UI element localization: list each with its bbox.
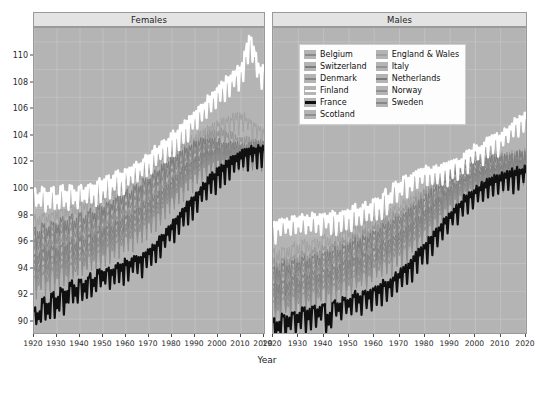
x-tick-mark <box>500 334 501 337</box>
legend-label: Norway <box>392 87 422 95</box>
panel-title-females-strip: Females <box>33 12 265 27</box>
x-tick-mark <box>240 334 241 337</box>
x-tick-label: 1980 <box>161 339 180 348</box>
legend-swatch-icon <box>376 62 388 71</box>
x-tick-mark <box>348 334 349 337</box>
panel-females: Females <box>33 12 265 334</box>
x-tick-mark <box>297 334 298 337</box>
legend-item[interactable]: France <box>304 97 367 108</box>
x-tick-mark <box>33 334 34 337</box>
y-tick-label: 96 <box>18 237 28 246</box>
x-tick-mark <box>102 334 103 337</box>
legend-item[interactable]: Italy <box>376 61 459 72</box>
x-tick-label: 1990 <box>184 339 203 348</box>
legend-label: England & Wales <box>392 51 459 59</box>
legend-swatch-icon <box>304 110 316 119</box>
y-tick-label: 90 <box>18 316 28 325</box>
y-tick-label: 106 <box>13 104 28 113</box>
legend-swatch-icon <box>376 74 388 83</box>
legend-item[interactable]: Sweden <box>376 97 459 108</box>
legend-label: Scotland <box>320 111 355 119</box>
x-tick-label: 1970 <box>138 339 157 348</box>
x-tick-label: 1950 <box>338 339 357 348</box>
x-axis-females: 1920193019401950196019701980199020002010… <box>33 334 265 350</box>
x-tick-label: 2010 <box>230 339 249 348</box>
y-tick-label: 108 <box>13 77 28 86</box>
legend-column-left: BelgiumSwitzerlandDenmarkFinlandFranceSc… <box>304 49 367 120</box>
legend-swatch-icon <box>376 50 388 59</box>
y-tick-label: 110 <box>13 51 28 60</box>
legend-item[interactable]: Scotland <box>304 109 367 120</box>
legend-label: Belgium <box>320 51 353 59</box>
x-tick-label: 1940 <box>313 339 332 348</box>
x-tick-mark <box>263 334 264 337</box>
y-tick-label: 100 <box>13 184 28 193</box>
x-tick-mark <box>525 334 526 337</box>
x-tick-mark <box>56 334 57 337</box>
x-tick-label: 1990 <box>439 339 458 348</box>
x-tick-label: 1960 <box>364 339 383 348</box>
legend-swatch-icon <box>304 62 316 71</box>
legend-label: Switzerland <box>320 63 367 71</box>
legend-label: Italy <box>392 63 409 71</box>
x-tick-mark <box>373 334 374 337</box>
legend-item[interactable]: Denmark <box>304 73 367 84</box>
x-tick-label: 1960 <box>115 339 134 348</box>
legend-swatch-icon <box>376 86 388 95</box>
x-tick-label: 2010 <box>490 339 509 348</box>
y-axis: 9092949698100102104106108110 <box>0 27 33 334</box>
legend-swatch-icon <box>304 86 316 95</box>
panel-title-males-strip: Males <box>272 12 527 27</box>
legend-swatch-icon <box>304 74 316 83</box>
legend-label: Netherlands <box>392 75 441 83</box>
legend-item[interactable]: Netherlands <box>376 73 459 84</box>
legend-label: Sweden <box>392 99 424 107</box>
panel-title-males: Males <box>387 15 412 25</box>
x-tick-label: 1920 <box>262 339 281 348</box>
legend-item[interactable]: England & Wales <box>376 49 459 60</box>
x-tick-label: 1930 <box>46 339 65 348</box>
legend-item[interactable]: Norway <box>376 85 459 96</box>
legend-item[interactable]: Belgium <box>304 49 367 60</box>
x-axis-males: 1920193019401950196019701980199020002010… <box>272 334 527 350</box>
legend-item[interactable]: Switzerland <box>304 61 367 72</box>
legend-swatch-icon <box>304 98 316 107</box>
panel-title-females: Females <box>131 15 167 25</box>
x-axis-label: Year <box>0 355 534 365</box>
x-tick-mark <box>79 334 80 337</box>
y-tick-label: 94 <box>18 263 28 272</box>
x-tick-label: 2000 <box>207 339 226 348</box>
x-tick-mark <box>148 334 149 337</box>
x-tick-mark <box>323 334 324 337</box>
plot-area-females <box>33 27 265 334</box>
legend: BelgiumSwitzerlandDenmarkFinlandFranceSc… <box>299 44 466 125</box>
legend-swatch-icon <box>376 98 388 107</box>
legend-label: Finland <box>320 87 349 95</box>
x-tick-mark <box>474 334 475 337</box>
x-tick-mark <box>449 334 450 337</box>
x-tick-mark <box>272 334 273 337</box>
x-tick-mark <box>194 334 195 337</box>
x-tick-label: 1920 <box>23 339 42 348</box>
x-tick-mark <box>217 334 218 337</box>
x-tick-label: 1950 <box>92 339 111 348</box>
x-tick-mark <box>424 334 425 337</box>
x-tick-mark <box>171 334 172 337</box>
y-tick-label: 102 <box>13 157 28 166</box>
y-tick-label: 92 <box>18 290 28 299</box>
legend-label: France <box>320 99 347 107</box>
y-tick-label: 104 <box>13 130 28 139</box>
x-tick-label: 1930 <box>288 339 307 348</box>
legend-column-right: England & WalesItalyNetherlandsNorwaySwe… <box>376 49 459 120</box>
legend-swatch-icon <box>304 50 316 59</box>
legend-item[interactable]: Finland <box>304 85 367 96</box>
y-tick-label: 98 <box>18 210 28 219</box>
x-tick-mark <box>125 334 126 337</box>
legend-label: Denmark <box>320 75 357 83</box>
x-tick-label: 1980 <box>414 339 433 348</box>
x-tick-label: 1940 <box>69 339 88 348</box>
x-tick-mark <box>399 334 400 337</box>
x-tick-label: 1970 <box>389 339 408 348</box>
x-tick-label: 2000 <box>465 339 484 348</box>
